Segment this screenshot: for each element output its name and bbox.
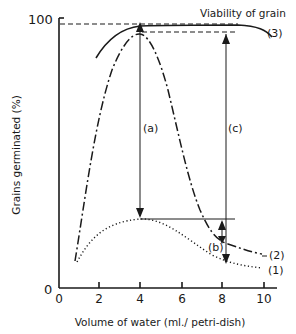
- label-viability: Viability of grain: [200, 7, 286, 19]
- x-tick-10: 10: [256, 292, 271, 306]
- legend-1: (1): [268, 264, 284, 277]
- curve-2: [75, 34, 262, 261]
- x-tick-labels: 0 2 4 6 8 10: [55, 292, 271, 306]
- x-tick-2: 2: [95, 292, 103, 306]
- annotation-arrows: [136, 22, 235, 264]
- chart: 100 0 0 2 4 6 8 10 Volume of water (ml./…: [0, 0, 296, 334]
- label-c: (c): [228, 122, 243, 135]
- legend-3: (3): [267, 27, 283, 40]
- label-a: (a): [143, 122, 158, 135]
- label-b: (b): [208, 241, 224, 254]
- x-axis-title: Volume of water (ml./ petri-dish): [75, 316, 246, 328]
- x-tick-0: 0: [55, 292, 63, 306]
- y-tick-0: 0: [44, 282, 52, 297]
- y-tick-100: 100: [28, 12, 53, 27]
- curve-3-viability: [96, 25, 272, 58]
- y-tick-labels: 100 0: [28, 12, 53, 297]
- curve-1: [77, 219, 262, 268]
- y-axis-title: Grains germinated (%): [10, 95, 22, 215]
- x-tick-8: 8: [218, 292, 226, 306]
- x-tick-4: 4: [136, 292, 144, 306]
- annotation-labels: (a) (b) (c) Viability of grain (3) (2) (…: [143, 7, 286, 277]
- x-tick-6: 6: [178, 292, 186, 306]
- legend-2: (2): [269, 249, 285, 262]
